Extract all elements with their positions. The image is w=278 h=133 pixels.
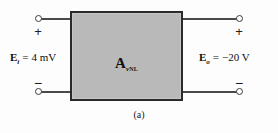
- input-voltage-value: 4 mV: [32, 51, 57, 63]
- output-equals-sign: =: [210, 51, 222, 63]
- input-voltage-label: Ei=4 mV: [10, 52, 56, 66]
- output-symbol: Eo: [199, 51, 210, 63]
- lead-input-bottom: [40, 91, 71, 93]
- input-minus-sign: −: [32, 76, 44, 90]
- lead-input-top: [40, 18, 71, 20]
- output-minus-sign: −: [233, 76, 245, 90]
- input-symbol: Ei: [10, 51, 19, 63]
- figure-caption: (a): [0, 110, 278, 120]
- input-plus-sign: +: [32, 25, 44, 38]
- gain-subscript: vNL: [126, 65, 138, 73]
- amplifier-block: AvNL: [70, 11, 183, 101]
- lead-output-bottom: [183, 91, 239, 93]
- gain-subscript-nl: NL: [129, 66, 138, 72]
- output-voltage-value: −20 V: [222, 51, 250, 63]
- lead-output-top: [183, 18, 239, 20]
- amplifier-block-figure: + − + − AvNL Ei=4 mV Eo=−20 V (a): [0, 0, 278, 133]
- terminal-input-positive: [35, 15, 42, 22]
- terminal-output-positive: [236, 15, 243, 22]
- gain-label: AvNL: [72, 56, 181, 73]
- gain-symbol: A: [115, 55, 126, 71]
- output-plus-sign: +: [233, 25, 245, 38]
- input-equals-sign: =: [19, 51, 31, 63]
- output-voltage-label: Eo=−20 V: [199, 52, 250, 66]
